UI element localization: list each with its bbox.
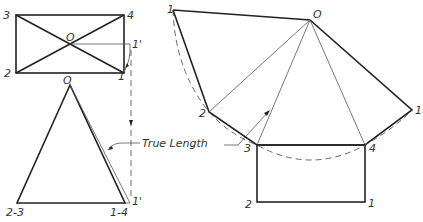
dev-label-base-1: 1 [368,197,375,210]
dev-label-o: O [313,8,322,21]
arc-arrowhead-icon [125,63,129,68]
true-length-label: True Length [142,137,208,150]
top-label-o: O [66,31,75,44]
dev-label-1-left: 1 [167,3,174,16]
top-label-4: 4 [127,9,134,22]
front-label-1-4: 1-4 [110,206,128,219]
dev-label-3: 3 [244,142,251,155]
projection-arrow-icon [129,120,133,126]
front-view-triangle [17,85,125,203]
pyramid-development-drawing: 3 4 2 1 O 1' O 2-3 1-4 1' True Length 1 … [0,0,423,222]
leader-line-left [109,143,140,148]
top-label-2: 2 [4,67,11,80]
dev-label-2: 2 [199,107,206,120]
top-label-1-prime: 1' [132,38,142,51]
top-label-1: 1 [118,70,125,83]
top-view: 3 4 2 1 O 1' [3,9,142,83]
front-label-o: O [63,74,72,87]
development-base-rectangle [257,145,365,202]
development-pattern: 1 O 2 3 4 1 2 1 [167,3,422,211]
front-label-1-prime: 1' [132,195,142,208]
rotation-arc [124,44,130,72]
front-label-2-3: 2-3 [6,206,24,219]
top-label-3: 3 [3,9,10,22]
leader-line-right [224,112,268,145]
dev-label-base-2: 2 [245,198,252,211]
fold-line-o-2 [209,20,310,112]
fold-line-o-4 [310,20,365,145]
true-length-line [70,85,130,203]
front-view: O 2-3 1-4 1' [6,74,142,219]
development-outline [173,10,412,145]
fold-line-o-3 [257,20,310,145]
dev-label-4: 4 [369,142,376,155]
dev-label-1-right: 1 [415,104,422,117]
